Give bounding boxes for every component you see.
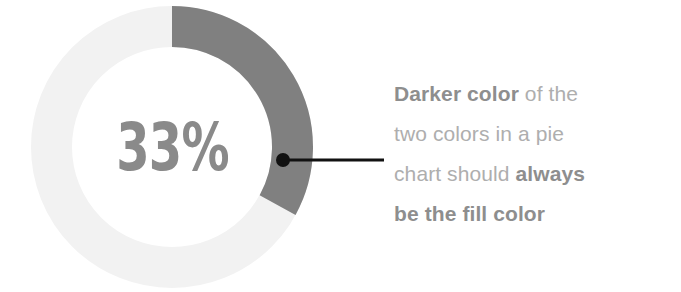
annotation-text: Darker color of the two colors in a pie …: [394, 74, 679, 234]
annotation-line: Darker color of the: [394, 74, 679, 114]
annotation-line: be the fill color: [394, 194, 679, 234]
annotation-emphasis: be the fill color: [394, 202, 545, 225]
annotation-plain: of the: [519, 82, 578, 105]
donut-fill-slice-filled: [172, 27, 292, 206]
annotation-plain: two colors in a pie: [394, 122, 564, 145]
annotation-emphasis: always: [516, 162, 586, 185]
annotation-line: chart should always: [394, 154, 679, 194]
annotation-line: two colors in a pie: [394, 114, 679, 154]
donut-chart-figure: 33% Darker color of the two colors in a …: [0, 0, 681, 292]
annotation-connector: [270, 145, 395, 175]
annotation-emphasis: Darker color: [394, 82, 519, 105]
connector-dot-icon: [276, 153, 290, 167]
annotation-plain: chart should: [394, 162, 516, 185]
